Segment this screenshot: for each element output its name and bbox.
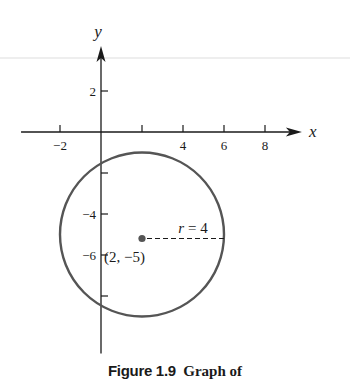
- center-point-label: (2, −5): [104, 249, 145, 266]
- x-axis-label: x: [308, 122, 317, 141]
- y-tick-label: 2: [90, 84, 97, 99]
- y-tick-label: −6: [82, 248, 96, 263]
- y-tick-label: −4: [82, 207, 96, 222]
- x-tick-label: 8: [262, 138, 269, 153]
- x-tick-label: 4: [180, 138, 187, 153]
- axes: [21, 46, 302, 354]
- radius-label: r = 4: [178, 220, 208, 236]
- caption-number: Figure 1.9: [108, 362, 176, 379]
- caption-text: Graph of: [183, 363, 242, 379]
- y-axis-label: y: [92, 22, 102, 41]
- x-tick-label: −2: [53, 138, 67, 153]
- x-tick-label: 6: [221, 138, 228, 153]
- figure-caption: Figure 1.9 Graph of: [0, 362, 350, 380]
- radius-label-value: = 4: [184, 220, 208, 236]
- circle-graph: xy−24682−4−6r = 4(2, −5): [0, 0, 350, 392]
- center-point: [138, 235, 145, 242]
